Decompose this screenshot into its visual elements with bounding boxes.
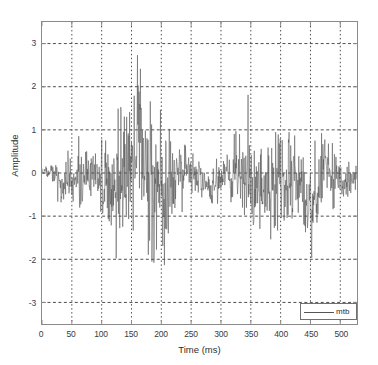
- y-tick-label: 2: [31, 81, 36, 91]
- y-tick-label: -1: [29, 211, 36, 221]
- legend-box: mtb: [300, 303, 357, 320]
- x-tick-label: 250: [184, 329, 198, 339]
- x-tick-label: 500: [334, 329, 348, 339]
- x-tick-label: 200: [154, 329, 168, 339]
- x-axis-tick-labels: 050100150200250300350400450500: [41, 329, 358, 343]
- chart-figure: 3210-1-2-3 Amplitude 0501001502002503003…: [0, 0, 378, 365]
- y-tick-label: 0: [31, 168, 36, 178]
- y-axis-label: Amplitude: [9, 116, 20, 196]
- x-tick-label: 150: [124, 329, 138, 339]
- x-tick-label: 0: [39, 329, 44, 339]
- x-tick-label: 350: [244, 329, 258, 339]
- plot-area: [41, 21, 358, 325]
- y-tick-label: -2: [29, 255, 36, 265]
- x-axis-label: Time (ms): [41, 344, 358, 355]
- x-tick-label: 100: [94, 329, 108, 339]
- y-tick-label: -3: [29, 298, 36, 308]
- x-tick-label: 450: [304, 329, 318, 339]
- y-tick-label: 1: [31, 125, 36, 135]
- legend-line-swatch: [304, 307, 334, 317]
- y-tick-label: 3: [31, 38, 36, 48]
- series-mtb: [42, 22, 357, 324]
- x-tick-label: 300: [214, 329, 228, 339]
- legend-label-mtb: mtb: [336, 307, 349, 316]
- x-tick-label: 50: [66, 329, 75, 339]
- x-tick-label: 400: [274, 329, 288, 339]
